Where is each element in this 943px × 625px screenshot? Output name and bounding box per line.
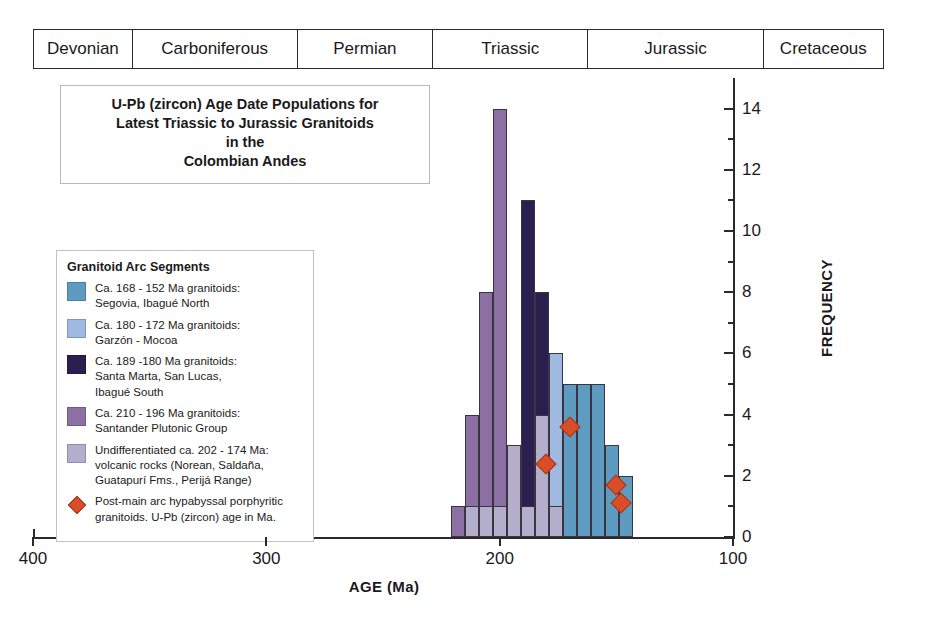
period-label: Cretaceous xyxy=(780,39,867,59)
histogram-bar xyxy=(563,384,577,537)
histogram-bar xyxy=(479,292,493,537)
histogram-bar xyxy=(591,384,605,537)
legend-entry-line: Post-main arc hypabyssal porphyritic xyxy=(95,494,283,509)
y-axis-tick xyxy=(724,475,734,477)
y-axis-minor-tick xyxy=(728,261,734,263)
y-axis-tick xyxy=(724,414,734,416)
chart-title-line-3: in the xyxy=(71,133,419,152)
period-label: Triassic xyxy=(481,39,539,59)
legend-entry-line: Santander Plutonic Group xyxy=(95,421,240,436)
y-axis-tick-label: 8 xyxy=(742,282,751,302)
y-axis-tick xyxy=(724,352,734,354)
y-axis-title: FREQUENCY xyxy=(818,259,835,357)
period-cell-cretaceous: Cretaceous xyxy=(764,30,883,68)
x-axis-tick-label: 100 xyxy=(719,549,747,569)
legend-entry-line: Undifferentiated ca. 202 - 174 Ma: xyxy=(95,443,269,458)
legend-entry-4: Undifferentiated ca. 202 - 174 Ma:volcan… xyxy=(67,443,304,489)
x-axis-tick-label: 400 xyxy=(19,549,47,569)
period-cell-triassic: Triassic xyxy=(433,30,588,68)
y-axis-tick xyxy=(724,169,734,171)
period-cell-carboniferous: Carboniferous xyxy=(133,30,298,68)
legend-entry-5: Post-main arc hypabyssal porphyriticgran… xyxy=(67,494,304,525)
x-axis-tick xyxy=(32,537,34,546)
y-axis-line xyxy=(733,78,735,538)
y-axis-tick-label: 12 xyxy=(742,160,761,180)
chart-title-line-1: U-Pb (zircon) Age Date Populations for xyxy=(71,95,419,114)
legend-title: Granitoid Arc Segments xyxy=(67,260,304,274)
x-axis-tick xyxy=(265,537,267,546)
legend-entry-line: Ca. 168 - 152 Ma granitoids: xyxy=(95,281,240,296)
legend-entry-line: Guatapurí Fms., Perijá Range) xyxy=(95,473,269,488)
x-axis-tick xyxy=(499,537,501,546)
chart-title-line-2: Latest Triassic to Jurassic Granitoids xyxy=(71,114,419,133)
histogram-bar-underlay xyxy=(465,506,479,537)
x-axis-title: AGE (Ma) xyxy=(349,578,420,595)
legend: Granitoid Arc Segments Ca. 168 - 152 Ma … xyxy=(56,250,314,542)
legend-color-swatch xyxy=(67,319,86,338)
y-axis-tick-label: 10 xyxy=(742,221,761,241)
y-axis-tick-label: 2 xyxy=(742,466,751,486)
y-axis-minor-tick xyxy=(728,444,734,446)
legend-color-swatch xyxy=(67,407,86,426)
period-cell-permian: Permian xyxy=(298,30,434,68)
legend-entry-line: granitoids. U-Pb (zircon) age in Ma. xyxy=(95,510,283,525)
legend-color-swatch xyxy=(67,355,86,374)
period-label: Jurassic xyxy=(644,39,706,59)
y-axis-tick xyxy=(724,230,734,232)
y-axis-tick-label: 0 xyxy=(742,527,751,547)
histogram-bar-underlay xyxy=(521,506,535,537)
legend-entry-line: Garzón - Mocoa xyxy=(95,333,240,348)
legend-entry-line: Ca. 189 -180 Ma granitoids: xyxy=(95,354,237,369)
y-axis-tick-label: 6 xyxy=(742,343,751,363)
legend-diamond-icon xyxy=(67,495,86,514)
period-cell-jurassic: Jurassic xyxy=(588,30,763,68)
y-axis-minor-tick xyxy=(728,322,734,324)
histogram-bar xyxy=(507,445,521,537)
histogram-bar xyxy=(493,109,507,537)
legend-entry-line: Ca. 180 - 172 Ma granitoids: xyxy=(95,318,240,333)
histogram-bar-underlay xyxy=(535,415,549,537)
x-axis-tick-label: 200 xyxy=(485,549,513,569)
histogram-bar-underlay xyxy=(479,506,493,537)
legend-entry-text: Ca. 168 - 152 Ma granitoids:Segovia, Iba… xyxy=(95,281,240,312)
legend-entry-3: Ca. 210 - 196 Ma granitoids:Santander Pl… xyxy=(67,406,304,437)
legend-entry-text: Undifferentiated ca. 202 - 174 Ma:volcan… xyxy=(95,443,269,489)
figure-root: DevonianCarboniferousPermianTriassicJura… xyxy=(0,0,943,625)
histogram-bar xyxy=(521,200,535,537)
period-label: Permian xyxy=(333,39,396,59)
y-axis-minor-tick xyxy=(728,505,734,507)
chart-title-box: U-Pb (zircon) Age Date Populations for L… xyxy=(60,85,430,184)
histogram-bar-underlay xyxy=(549,506,563,537)
legend-entry-0: Ca. 168 - 152 Ma granitoids:Segovia, Iba… xyxy=(67,281,304,312)
legend-entry-1: Ca. 180 - 172 Ma granitoids:Garzón - Moc… xyxy=(67,318,304,349)
geologic-period-strip: DevonianCarboniferousPermianTriassicJura… xyxy=(33,29,884,69)
period-cell-devonian: Devonian xyxy=(34,30,133,68)
y-axis-tick xyxy=(724,108,734,110)
x-axis-tick-label: 300 xyxy=(252,549,280,569)
legend-color-swatch xyxy=(67,444,86,463)
legend-color-swatch xyxy=(67,282,86,301)
histogram-bar-underlay xyxy=(493,506,507,537)
legend-entry-line: Segovia, Ibagué North xyxy=(95,296,240,311)
legend-entry-2: Ca. 189 -180 Ma granitoids:Santa Marta, … xyxy=(67,354,304,400)
y-axis-tick-label: 4 xyxy=(742,405,751,425)
period-label: Devonian xyxy=(47,39,119,59)
legend-entry-text: Ca. 210 - 196 Ma granitoids:Santander Pl… xyxy=(95,406,240,437)
chart-title-line-4: Colombian Andes xyxy=(71,152,419,171)
legend-entry-text: Ca. 189 -180 Ma granitoids:Santa Marta, … xyxy=(95,354,237,400)
legend-entries: Ca. 168 - 152 Ma granitoids:Segovia, Iba… xyxy=(67,281,304,525)
y-axis-tick-label: 14 xyxy=(742,99,761,119)
legend-entry-text: Post-main arc hypabyssal porphyriticgran… xyxy=(95,494,283,525)
x-axis-tick xyxy=(732,537,734,546)
histogram-bar xyxy=(451,506,465,537)
period-label: Carboniferous xyxy=(161,39,268,59)
legend-entry-line: Ibagué South xyxy=(95,385,237,400)
y-axis-minor-tick xyxy=(728,383,734,385)
y-axis-minor-tick xyxy=(728,138,734,140)
legend-entry-line: Santa Marta, San Lucas, xyxy=(95,369,237,384)
y-axis-minor-tick xyxy=(728,199,734,201)
legend-entry-text: Ca. 180 - 172 Ma granitoids:Garzón - Moc… xyxy=(95,318,240,349)
histogram-bar xyxy=(577,384,591,537)
legend-entry-line: Ca. 210 - 196 Ma granitoids: xyxy=(95,406,240,421)
legend-entry-line: volcanic rocks (Norean, Saldaña, xyxy=(95,458,269,473)
